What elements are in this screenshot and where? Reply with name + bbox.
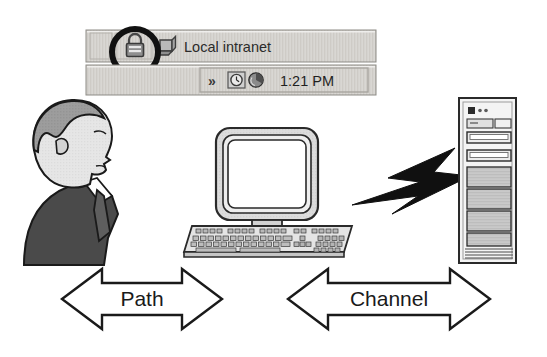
user-person	[24, 100, 118, 265]
keyboard-front-edge	[184, 252, 344, 257]
path-arrow-label: Path	[120, 287, 163, 310]
clock-tray-icon[interactable]	[228, 72, 245, 88]
desktop-computer	[184, 128, 352, 257]
person-ear	[56, 139, 68, 155]
server-vent-panel-4	[467, 233, 511, 246]
server-panel-blank	[495, 119, 511, 128]
path-arrow: Path	[62, 269, 222, 329]
taskbar-tray: » 1:21 PM	[86, 65, 376, 95]
diagram-canvas: Local intranet » 1:21 PM	[0, 0, 547, 357]
antivirus-tray-icon[interactable]	[249, 73, 263, 87]
keyboard[interactable]	[184, 226, 352, 257]
server-vent-panel-2	[467, 189, 511, 209]
server-tower	[459, 98, 516, 263]
lightning-bolt-shape	[352, 148, 470, 214]
server-floppy-slot-line	[470, 122, 478, 124]
intranet-zone-label: Local intranet	[184, 39, 271, 55]
server-network-led	[484, 109, 488, 113]
diagram-scene: Local intranet » 1:21 PM	[0, 0, 547, 357]
server-activity-led	[478, 109, 482, 113]
tray-bar-highlight	[87, 66, 375, 68]
channel-arrow: Channel	[288, 269, 490, 329]
monitor-screen[interactable]	[228, 140, 306, 208]
server-vent-panel-3	[467, 211, 511, 231]
keyboard-main-keys	[191, 236, 292, 252]
lightning-bolt	[352, 148, 470, 214]
server-drive-bay-1-slot	[470, 135, 508, 140]
tray-clock-time[interactable]: 1:21 PM	[280, 73, 334, 89]
tray-expand-chevrons-icon[interactable]: »	[208, 73, 216, 89]
channel-arrow-label: Channel	[350, 287, 428, 310]
server-vent-panel-1	[467, 167, 511, 187]
server-power-led	[468, 107, 475, 114]
server-drive-bay-2-slot	[470, 153, 508, 158]
keyboard-function-row	[196, 229, 338, 233]
